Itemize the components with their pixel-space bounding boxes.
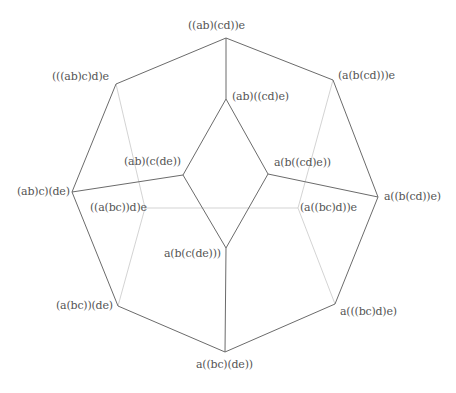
edge (226, 38, 333, 80)
vertex-label-a-bc-de: (a(bc))(de) (56, 300, 113, 312)
edge (116, 38, 226, 84)
vertex-label-a-bc-d-e: a(((bc)d)e) (340, 306, 397, 318)
edge (225, 248, 226, 352)
vertex-label-a-bc-d-e-hidden-right: (a((bc)d))e (300, 202, 357, 214)
vertex-label-ab-c-de: (ab)(c(de)) (124, 156, 181, 168)
edge (72, 175, 183, 192)
edge (118, 306, 225, 352)
vertex-label-a-b-cd-e: (a(b(cd)))e (338, 70, 395, 82)
vertex-label-abc-de: (ab)c)(de) (17, 186, 70, 198)
edge (333, 80, 378, 197)
vertex-label-a-b-cd-e-inner: a(b((cd)e)) (274, 157, 331, 169)
edge (183, 99, 226, 175)
vertex-label-abc-d-e: (((ab)c)d)e (52, 71, 109, 83)
associahedron-diagram: ((ab)(cd))e (((ab)c)d)e (a(b(cd)))e (ab)… (0, 0, 456, 393)
vertex-label-a-bcd-e: a((b(cd))e) (384, 191, 441, 203)
edge (183, 175, 226, 248)
vertex-label-ab-cd-e-inner: (ab)((cd)e) (232, 91, 289, 103)
hidden-edge (298, 80, 333, 208)
vertex-label-a-bc-d-e-hidden: ((a(bc))d)e (90, 202, 147, 214)
vertex-label-a-b-c-de: a(b(c(de))) (164, 248, 221, 260)
hidden-edge (118, 208, 145, 306)
edge (226, 174, 268, 248)
edge (72, 84, 116, 192)
edge (225, 304, 335, 352)
vertex-label-a-bc-de-bottom: a((bc)(de)) (196, 359, 253, 371)
vertex-label-ab-cd-e: ((ab)(cd))e (188, 20, 245, 32)
edge (226, 99, 268, 174)
hidden-edge (298, 208, 335, 304)
hidden-edge (116, 84, 145, 208)
edge (268, 174, 378, 197)
